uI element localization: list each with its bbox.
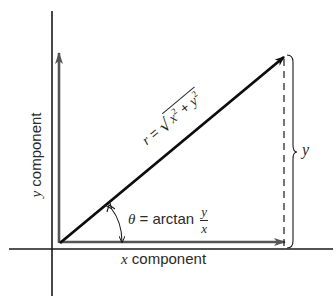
component-text: component <box>128 250 206 267</box>
y-brace-label: y <box>302 142 309 158</box>
arctan-function: arctan <box>152 210 194 227</box>
y-component-label: y component <box>28 112 44 197</box>
denominator: x <box>200 221 208 236</box>
y-brace <box>287 55 297 248</box>
theta-equation-label: θ = arctanyx <box>128 205 208 235</box>
x-variable: x <box>121 251 128 267</box>
equals-sign: = <box>135 210 152 227</box>
component-text: component <box>27 112 44 190</box>
fraction-y-over-x: yx <box>200 205 208 235</box>
y-variable: y <box>28 191 44 198</box>
x-component-label: x component <box>121 251 206 267</box>
theta-arc <box>111 208 122 242</box>
numerator: y <box>200 205 208 221</box>
